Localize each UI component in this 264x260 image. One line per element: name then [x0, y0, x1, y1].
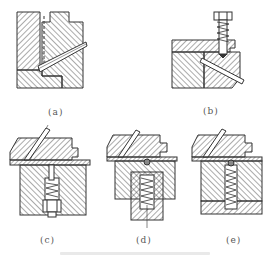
subfigure-c [10, 125, 90, 217]
subfigure-label-b: (b) [203, 106, 219, 116]
subfigure-e [192, 129, 262, 214]
detent-ball [144, 159, 150, 165]
diagram-canvas [0, 0, 264, 260]
left-block [172, 52, 204, 88]
subfigure-a [17, 12, 87, 88]
plug-screw [43, 200, 61, 212]
guide-plate [107, 157, 177, 161]
guide-plate [10, 160, 90, 165]
subfigure-label-c: (c) [40, 235, 55, 245]
subfigure-label-d: (d) [136, 235, 152, 245]
subfigure-b [172, 12, 244, 88]
subfigure-d [107, 130, 177, 228]
slider-block [107, 135, 167, 157]
plunger-pin [49, 165, 54, 180]
subfigure-label-e: (e) [226, 235, 241, 245]
slider-block [192, 135, 252, 157]
detent-ball [228, 160, 234, 166]
slider-block [10, 138, 78, 160]
guide-plate [192, 157, 262, 161]
faded-caption-line [60, 252, 210, 255]
left-block [17, 12, 40, 70]
subfigure-label-a: (a) [48, 107, 63, 117]
screw-head [214, 12, 232, 20]
